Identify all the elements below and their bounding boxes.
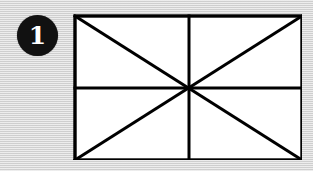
figure-number-label: 1: [17, 15, 58, 56]
divided-rectangle-figure: [71, 12, 302, 160]
divided-rectangle-svg: [71, 12, 302, 160]
figure-canvas: 1: [0, 0, 313, 171]
figure-number-badge: 1: [17, 15, 58, 56]
